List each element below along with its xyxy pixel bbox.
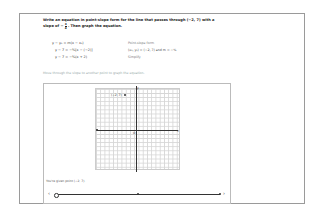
prompt-line-1: Write an equation in point-slope form fo… <box>43 18 214 22</box>
prompt-slope-prefix: slope of − <box>43 24 63 28</box>
y-axis <box>136 86 137 172</box>
step-2-note: (x₁, y₁) = (−2, 7) and m = −¾ <box>128 48 176 52</box>
step-1-note: Point-slope form <box>128 41 154 45</box>
step-3-equation: y − 7 = −¾(x + 2) <box>55 55 87 59</box>
x-axis <box>97 130 178 131</box>
slider-tick-end[interactable] <box>219 193 221 195</box>
given-point[interactable] <box>124 94 126 96</box>
hint-text: Move through the slope to another point … <box>43 71 145 75</box>
slider-tick-middle[interactable] <box>137 193 139 195</box>
step-1-equation: y − y₁ = m(x − x₁) <box>52 41 84 45</box>
x-axis-label: x <box>177 129 179 133</box>
origin-label: O <box>133 131 135 135</box>
step-2-equation: y − 7 = −¾[x − (−2)] <box>55 48 93 52</box>
step-3-note: Simplify <box>128 55 141 59</box>
y-axis-label: y <box>137 86 139 90</box>
slider-handle[interactable] <box>54 193 59 198</box>
slope-denominator: 4 <box>65 27 67 30</box>
x-axis-arrow-left-icon <box>96 129 98 131</box>
next-step-button[interactable]: › <box>223 191 225 196</box>
slope-fraction: 3 4 <box>65 23 67 30</box>
point-label: (−2, 7) <box>111 93 122 97</box>
coordinate-grid[interactable] <box>95 88 180 170</box>
prompt-suffix: . Then graph the equation. <box>68 24 122 28</box>
problem-prompt: Write an equation in point-slope form fo… <box>43 17 243 30</box>
previous-step-button[interactable]: ‹ <box>48 191 50 196</box>
step-caption: You're given point (−2, 7). <box>46 179 85 183</box>
y-axis-arrow-down-icon <box>136 170 138 172</box>
